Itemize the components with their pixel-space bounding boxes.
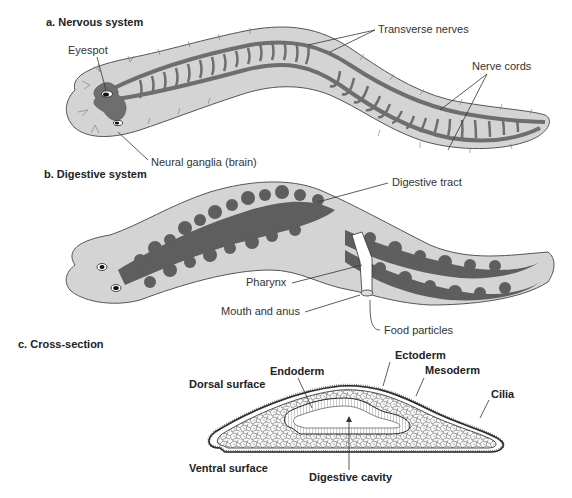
label-digestive-tract: Digestive tract: [392, 176, 462, 188]
label-mesoderm: Mesoderm: [425, 364, 480, 376]
mouth-opening: [361, 290, 373, 296]
label-ventral-surface: Ventral surface: [189, 462, 268, 474]
label-pharynx: Pharynx: [246, 276, 287, 288]
label-mouth-and-anus: Mouth and anus: [221, 305, 300, 317]
panel-a-nervous-system: a. Nervous system: [46, 16, 549, 168]
label-transverse-nerves: Transverse nerves: [378, 23, 469, 35]
label-eyespot: Eyespot: [68, 44, 108, 56]
label-neural-ganglia: Neural ganglia (brain): [151, 156, 257, 168]
worm-body-b: [66, 182, 554, 305]
eyespot-pupil-upper-a: [103, 93, 109, 97]
label-nerve-cords: Nerve cords: [472, 60, 532, 72]
flatworm-anatomy-diagram: a. Nervous system: [0, 0, 572, 498]
label-food-particles: Food particles: [384, 324, 454, 336]
panel-a-title: a. Nervous system: [46, 16, 143, 28]
panel-b-title: b. Digestive system: [44, 168, 147, 180]
label-cilia: Cilia: [491, 388, 515, 400]
label-dorsal-surface: Dorsal surface: [189, 378, 265, 390]
panel-c-title: c. Cross-section: [18, 338, 104, 350]
panel-b-digestive-system: b. Digestive system: [44, 168, 554, 336]
panel-c-cross-section: c. Cross-section Endoderm Ectoderm Mesod…: [18, 338, 515, 483]
label-digestive-cavity: Digestive cavity: [309, 471, 393, 483]
label-ectoderm: Ectoderm: [395, 349, 446, 361]
label-endoderm: Endoderm: [270, 365, 325, 377]
